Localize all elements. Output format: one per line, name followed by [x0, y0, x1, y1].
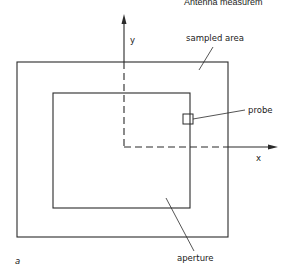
probe-label: probe [248, 105, 273, 115]
y-axis-arrow-icon [122, 14, 127, 24]
running-header: Antenna measurem [184, 0, 263, 7]
scanning-geometry-diagram: Antenna measurem y x probe sampled area … [0, 0, 293, 280]
sampled-area-label: sampled area [186, 33, 244, 43]
sampled-area-rect [17, 62, 228, 237]
panel-label: a [15, 256, 20, 266]
x-axis-arrow-icon [268, 145, 278, 150]
sampled-area-leader-line [199, 47, 213, 70]
x-axis [124, 145, 278, 150]
x-axis-label: x [256, 153, 261, 163]
y-axis [122, 14, 127, 147]
y-axis-label: y [130, 35, 135, 45]
probe-leader-line [193, 110, 245, 119]
aperture-label: aperture [177, 253, 214, 263]
aperture-rect [53, 93, 190, 208]
probe-square [183, 114, 193, 124]
